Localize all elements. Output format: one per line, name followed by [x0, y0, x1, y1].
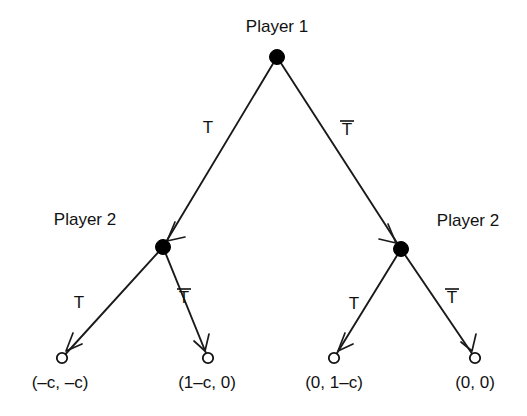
- decision-node-right-player2: [394, 242, 409, 257]
- terminal-node-4: [470, 353, 480, 363]
- edge-right-player2-to-terminal-3: [334, 249, 401, 358]
- player2-left-label: Player 2: [54, 210, 116, 229]
- arrowhead-into-terminal-4: [461, 334, 476, 351]
- game-tree-diagram: Player 1 Player 2 Player 2 T T T T T T (…: [0, 0, 527, 416]
- payoff-label-terminal-2: (1–c, 0): [178, 373, 236, 392]
- terminal-node-2: [203, 353, 213, 363]
- terminal-nodes-group: [57, 353, 480, 363]
- terminal-node-3: [329, 353, 339, 363]
- branch-labels-group: T T T T T T: [74, 118, 459, 313]
- player2-right-label: Player 2: [437, 211, 499, 230]
- payoff-label-terminal-1: (–c, –c): [32, 373, 89, 392]
- game-tree-canvas: Player 1 Player 2 Player 2 T T T T T T (…: [0, 0, 527, 416]
- edges-group: [62, 57, 475, 358]
- arrowhead-into-terminal-1: [66, 333, 82, 351]
- player1-root-label: Player 1: [246, 17, 308, 36]
- decision-node-player1-root: [270, 50, 285, 65]
- branch-label-right-t4: T: [447, 288, 457, 307]
- branch-label-left-t2: T: [179, 288, 189, 307]
- branch-label-root-right: T: [342, 120, 352, 139]
- decision-node-left-player2: [156, 240, 171, 255]
- decision-nodes-group: [156, 50, 409, 257]
- edge-root-to-right-player2: [277, 57, 401, 249]
- branch-label-left-t1: T: [74, 293, 84, 312]
- payoff-label-terminal-4: (0, 0): [455, 373, 495, 392]
- payoff-label-terminal-3: (0, 1–c): [305, 373, 363, 392]
- branch-label-root-left: T: [203, 118, 213, 137]
- terminal-node-1: [57, 353, 67, 363]
- payoff-labels-group: (–c, –c) (1–c, 0) (0, 1–c) (0, 0): [32, 373, 495, 392]
- player-labels-group: Player 1 Player 2 Player 2: [54, 17, 499, 230]
- branch-label-right-t3: T: [349, 294, 359, 313]
- edge-root-to-left-player2: [163, 57, 277, 247]
- edge-right-player2-to-terminal-4: [401, 249, 475, 358]
